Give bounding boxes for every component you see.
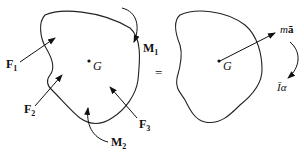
force-f3-label: F3 (139, 118, 150, 133)
left-body-outline (41, 11, 140, 123)
moment-m2-label: M2 (111, 136, 126, 151)
resultant-force-label: mā (280, 24, 293, 35)
force-f1-subscript: 1 (13, 64, 17, 73)
angular-acceleration-symbol: α (281, 81, 287, 93)
resultant-moment-arrow (288, 42, 298, 78)
equals-sign: = (155, 66, 162, 79)
acceleration-symbol: ā (288, 23, 294, 35)
force-f1-arrow (20, 38, 55, 62)
moment-m1-label: M1 (143, 42, 158, 57)
left-g-label: G (93, 60, 102, 72)
left-center-of-mass-point (87, 59, 90, 62)
mass-symbol: m (280, 23, 288, 35)
diagram-canvas (0, 0, 304, 152)
force-f2-label: F2 (24, 103, 35, 118)
moment-m2-subscript: 2 (122, 142, 126, 151)
moment-m1-subscript: 1 (154, 48, 158, 57)
force-f2-arrow (35, 75, 62, 106)
right-body-outline (175, 11, 262, 122)
force-f1-label: F1 (6, 58, 17, 73)
resultant-moment-label: Īα (277, 82, 286, 93)
moment-m1-symbol: M (143, 41, 154, 55)
force-f2-subscript: 2 (31, 109, 35, 118)
force-f3-subscript: 3 (146, 124, 150, 133)
moment-m2-symbol: M (111, 135, 122, 149)
force-f3-arrow (110, 87, 137, 118)
right-g-label: G (223, 60, 232, 72)
moment-m2-arrow (88, 108, 108, 142)
resultant-force-arrow (220, 33, 275, 61)
